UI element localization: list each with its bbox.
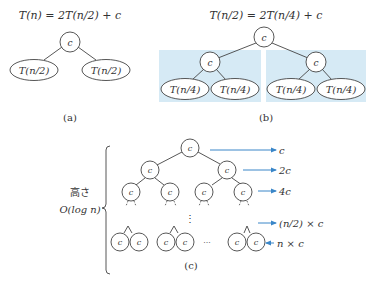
subproblem-label: T(n/2): [19, 65, 50, 76]
subproblem-label: T(n/4): [326, 84, 357, 95]
node-label: c: [137, 238, 142, 247]
subproblem-label: T(n/4): [276, 84, 307, 95]
panel-c-caption: (c): [184, 260, 198, 271]
panel-a: T(n) = 2T(n/2) + c c T(n/2) T(n/2) (a): [10, 9, 130, 123]
subproblem-label: T(n/2): [91, 65, 122, 76]
dashed-stubs: [126, 201, 249, 206]
node-label: c: [67, 38, 72, 48]
level-cost: 4c: [278, 186, 291, 197]
panel-b-caption: (b): [259, 112, 273, 123]
panel-a-caption: (a): [63, 112, 77, 123]
node-label: c: [164, 238, 169, 247]
node-label: c: [183, 238, 188, 247]
subproblem-label: T(n/4): [220, 84, 251, 95]
height-brace: [102, 146, 110, 274]
node-label: c: [241, 188, 246, 197]
node-label: c: [129, 188, 134, 197]
node-label: c: [225, 166, 230, 175]
horizontal-ellipsis: ···: [203, 238, 211, 247]
height-label: 高さ: [70, 186, 90, 198]
node-label: c: [207, 58, 212, 68]
panel-b: T(n/2) = 2T(n/4) + c c c c T(n/4) T(n/4)…: [159, 9, 366, 123]
node-label: c: [118, 238, 123, 247]
panel-c: 高さ O(log n) ⋮ c c c c c c c: [59, 139, 323, 274]
node-label: c: [148, 166, 153, 175]
node-label: c: [254, 238, 259, 247]
node-label: c: [202, 188, 207, 197]
panel-a-equation: T(n) = 2T(n/2) + c: [19, 9, 121, 22]
node-label: c: [313, 58, 318, 68]
height-value: O(log n): [59, 204, 100, 215]
level-cost: (n/2) × c: [279, 218, 324, 229]
level-cost: c: [279, 145, 285, 156]
node-label: c: [188, 144, 193, 153]
vertical-ellipsis: ⋮: [185, 213, 195, 224]
recursion-tree-figure: T(n) = 2T(n/2) + c c T(n/2) T(n/2) (a) T…: [0, 0, 379, 284]
level-cost: n × c: [277, 238, 304, 249]
node-label: c: [168, 188, 173, 197]
node-label: c: [235, 238, 240, 247]
subproblem-label: T(n/4): [170, 84, 201, 95]
panel-b-equation: T(n/2) = 2T(n/4) + c: [210, 9, 323, 22]
node-label: c: [261, 33, 266, 43]
level-cost: 2c: [278, 165, 291, 176]
